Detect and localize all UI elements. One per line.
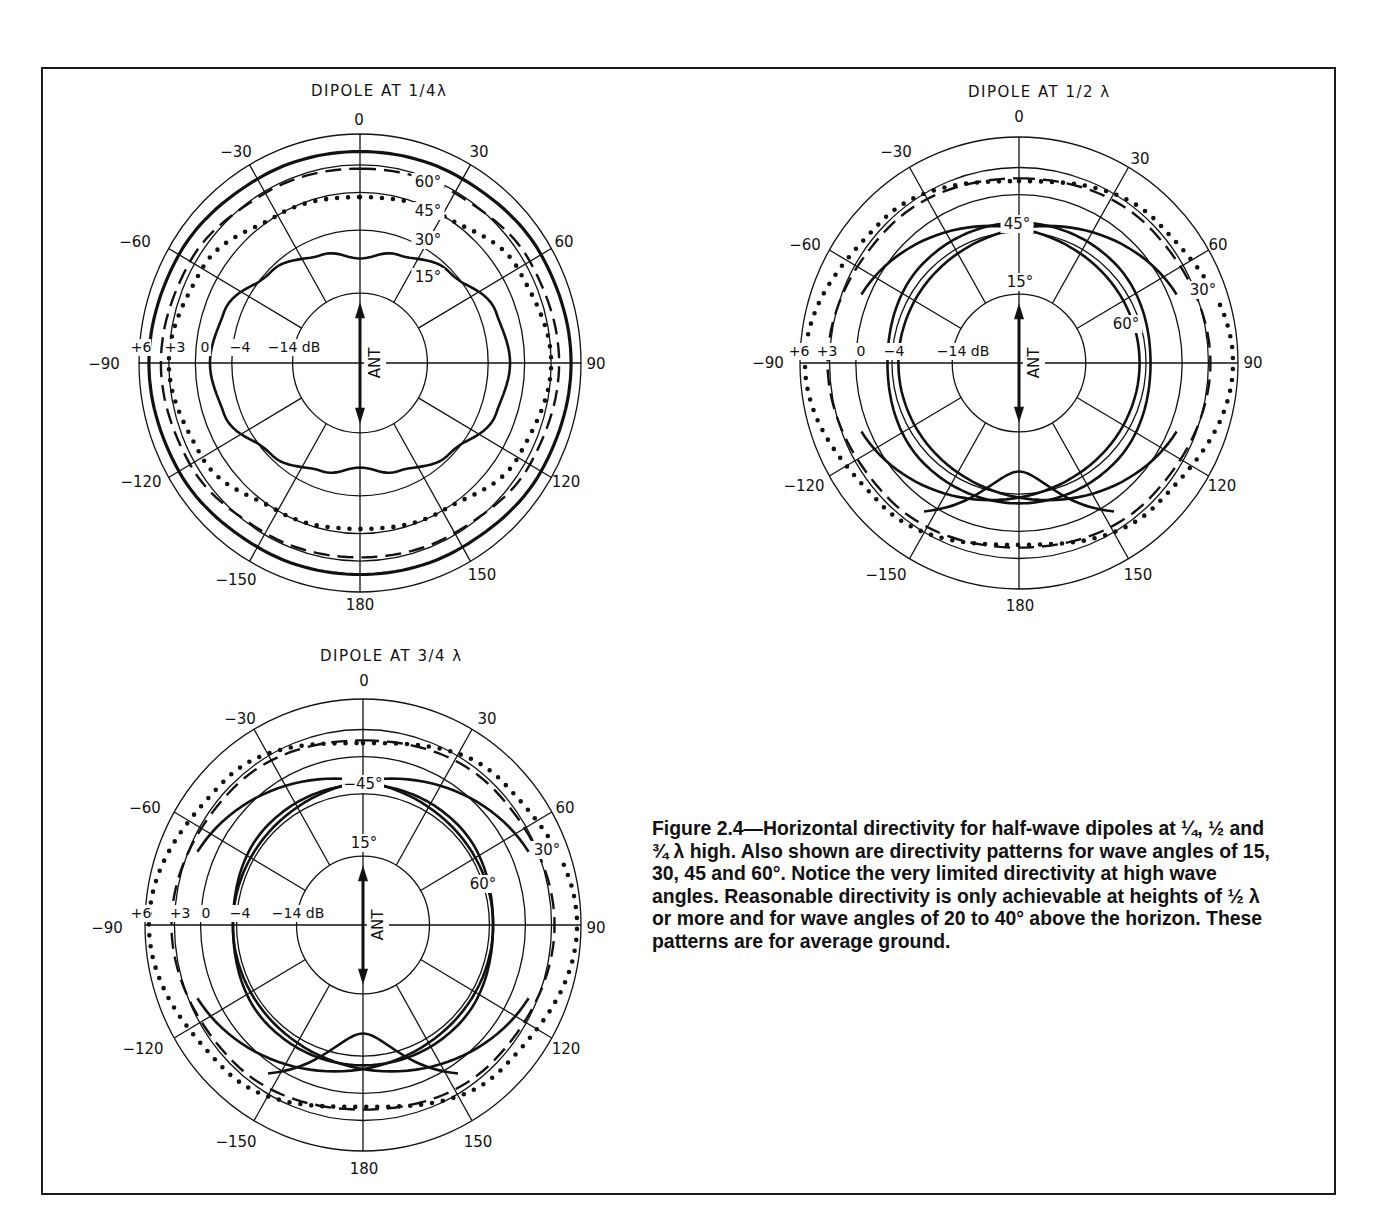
angle-tick-label: −120 — [122, 1040, 163, 1058]
angle-spoke — [829, 397, 961, 476]
curve-label: 60° — [1113, 315, 1140, 333]
angle-spoke — [1077, 397, 1209, 476]
db-tick-label: 0 — [857, 343, 866, 359]
db-tick-label: 0 — [202, 905, 211, 921]
db-tick-label: +3 — [817, 343, 838, 359]
angle-tick-label: −30 — [880, 143, 912, 161]
angle-spoke — [169, 249, 302, 329]
angle-tick-label: 120 — [552, 473, 581, 491]
angle-tick-label: −150 — [865, 566, 906, 584]
polar-plot-three-quarter-wave: ANTDIPOLE AT 3/4 λ0306090120150180−150−1… — [91, 647, 605, 1178]
angle-tick-label: −90 — [752, 354, 784, 372]
polar-plot-quarter-wave: ANTDIPOLE AT 1/4λ0306090120150180−150−12… — [88, 82, 605, 614]
angle-tick-label: 30 — [469, 143, 488, 161]
angle-tick-label: −60 — [129, 799, 161, 817]
angle-tick-label: 60 — [554, 233, 573, 251]
angle-spoke — [396, 729, 472, 865]
db-tick-label: +3 — [170, 905, 191, 921]
angle-tick-label: −90 — [88, 355, 120, 373]
angle-tick-label: 30 — [1130, 150, 1149, 168]
curve-label: 60° — [415, 173, 442, 191]
curve-label: 45° — [1004, 215, 1031, 233]
curve-label: 15° — [1007, 273, 1034, 291]
db-tick-label: +6 — [789, 343, 810, 359]
arrow-up-icon — [1014, 303, 1024, 319]
plot-title: DIPOLE AT 1/4λ — [311, 82, 447, 100]
db-tick-label: +6 — [131, 905, 152, 921]
db-tick-label: −4 — [230, 905, 251, 921]
arrow-up-icon — [355, 302, 365, 318]
angle-tick-label: 150 — [468, 566, 497, 584]
plot-title: DIPOLE AT 1/2 λ — [968, 83, 1111, 101]
antenna-label: ANT — [1025, 347, 1043, 378]
arrow-down-icon — [1014, 407, 1024, 423]
angle-tick-label: −90 — [91, 919, 123, 937]
curve-label: 15° — [415, 268, 442, 286]
curve-label: 15° — [351, 834, 378, 852]
curve-label: −45° — [343, 775, 382, 793]
antenna-label: ANT — [369, 909, 387, 940]
angle-spoke — [1052, 423, 1128, 559]
angle-tick-label: −120 — [120, 473, 161, 491]
angle-tick-label: 180 — [350, 1160, 379, 1178]
angle-tick-label: −150 — [215, 571, 256, 589]
angle-spoke — [254, 985, 330, 1121]
curve-label: 45° — [415, 202, 442, 220]
angle-spoke — [910, 423, 986, 559]
angle-spoke — [910, 167, 986, 303]
db-tick-label: 0 — [201, 339, 210, 355]
angle-spoke — [829, 250, 961, 329]
arrow-up-icon — [358, 865, 368, 881]
db-tick-label: −4 — [230, 339, 251, 355]
plot-title: DIPOLE AT 3/4 λ — [320, 647, 463, 665]
angle-tick-label: 60 — [1208, 236, 1227, 254]
angle-tick-label: 150 — [464, 1133, 493, 1151]
angle-tick-label: 60 — [555, 799, 574, 817]
angle-spoke — [1052, 167, 1128, 303]
angle-tick-label: 180 — [346, 596, 375, 614]
angle-tick-label: 0 — [354, 111, 364, 129]
angle-spoke — [169, 398, 302, 478]
angle-spoke — [418, 249, 551, 329]
angle-tick-label: −150 — [215, 1133, 256, 1151]
angle-tick-label: −60 — [789, 236, 821, 254]
angle-tick-label: 120 — [1208, 477, 1237, 495]
angle-spoke — [418, 398, 551, 478]
figure-caption: Figure 2.4—Horizontal directivity for ha… — [652, 817, 1272, 952]
polar-plots: ANTDIPOLE AT 1/4λ0306090120150180−150−12… — [0, 0, 1373, 1223]
db-tick-label: −14 dB — [272, 905, 325, 921]
angle-spoke — [396, 985, 472, 1121]
db-tick-label: +3 — [165, 339, 186, 355]
angle-tick-label: −30 — [220, 143, 252, 161]
angle-tick-label: 180 — [1006, 597, 1035, 615]
db-tick-label: −14 dB — [268, 339, 321, 355]
arrow-down-icon — [358, 969, 368, 985]
angle-tick-label: 30 — [477, 710, 496, 728]
polar-plot-half-wave: ANTDIPOLE AT 1/2 λ0306090120150180−150−1… — [752, 83, 1262, 615]
db-tick-label: −14 dB — [937, 343, 990, 359]
curve-label: 30° — [534, 841, 561, 859]
curve-label: 60° — [470, 875, 497, 893]
angle-tick-label: 150 — [1124, 566, 1153, 584]
curve-label: 30° — [1190, 281, 1217, 299]
antenna-label: ANT — [366, 347, 384, 378]
angle-tick-label: 0 — [359, 672, 369, 690]
arrow-down-icon — [355, 408, 365, 424]
angle-tick-label: −60 — [119, 233, 151, 251]
angle-tick-label: 90 — [586, 355, 605, 373]
curve-label: 30° — [415, 231, 442, 249]
angle-tick-label: 120 — [552, 1040, 581, 1058]
angle-tick-label: 0 — [1014, 108, 1024, 126]
angle-spoke — [254, 729, 330, 865]
db-tick-label: −4 — [884, 343, 905, 359]
angle-tick-label: 90 — [1243, 354, 1262, 372]
db-tick-label: +6 — [131, 339, 152, 355]
angle-tick-label: 90 — [586, 919, 605, 937]
angle-tick-label: −120 — [783, 477, 824, 495]
angle-tick-label: −30 — [224, 710, 256, 728]
